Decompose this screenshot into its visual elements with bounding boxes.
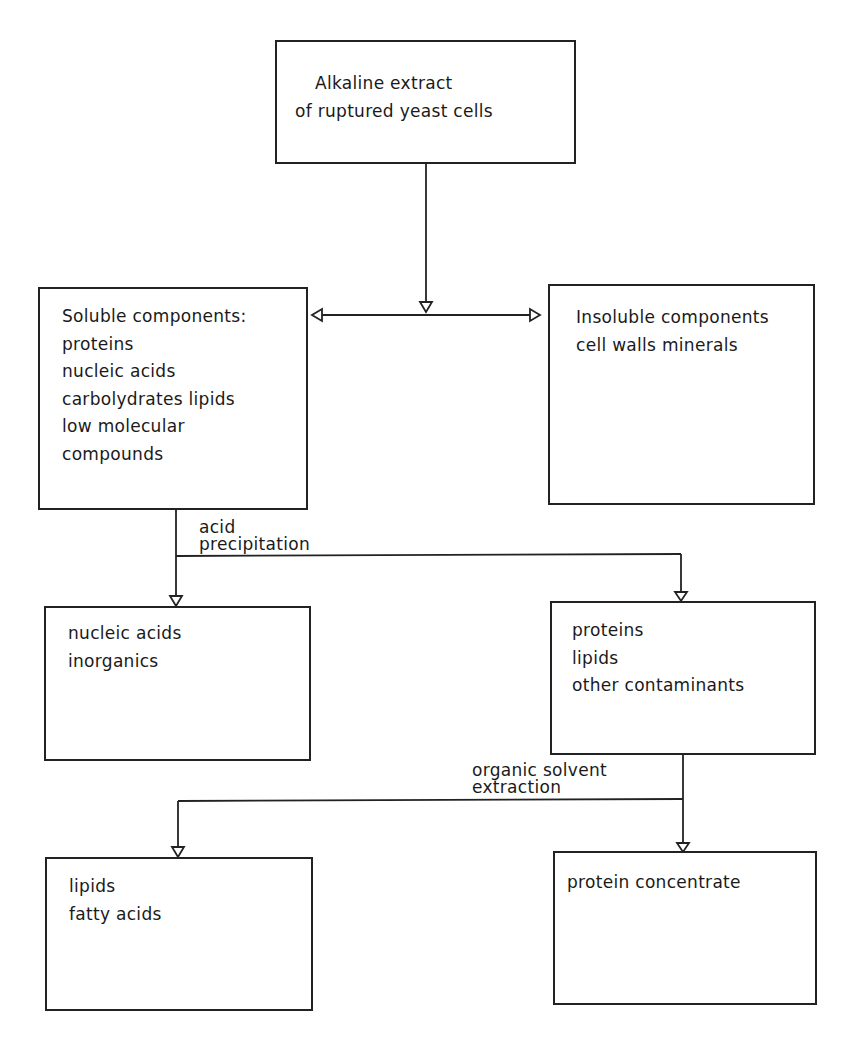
node-text: nucleic acids xyxy=(68,620,182,648)
node-soluble-components: Soluble components: proteins nucleic aci… xyxy=(38,287,308,510)
node-text: inorganics xyxy=(68,648,182,676)
node-text: lipids xyxy=(572,645,744,673)
node-text: nucleic acids xyxy=(62,358,247,386)
arrow-right-icon xyxy=(530,309,540,321)
arrow-down-icon xyxy=(420,302,432,312)
node-text: compounds xyxy=(62,441,247,469)
node-text: proteins xyxy=(572,617,744,645)
node-protein-concentrate: protein concentrate xyxy=(553,851,817,1005)
arrow-down-icon xyxy=(170,596,182,606)
node-nucleic-acids: nucleic acids inorganics xyxy=(44,606,311,761)
node-text: Soluble components: xyxy=(62,303,247,331)
edge-label-line: precipitation xyxy=(199,536,310,553)
node-text: lipids xyxy=(69,873,162,901)
node-text: protein concentrate xyxy=(567,869,741,897)
edge-label-line: extraction xyxy=(472,779,607,796)
node-text: Alkaline extract xyxy=(295,70,493,98)
node-text: cell walls minerals xyxy=(576,332,769,360)
arrow-down-icon xyxy=(675,592,687,601)
node-text: proteins xyxy=(62,331,247,359)
arrow-left-icon xyxy=(312,309,322,321)
node-text: fatty acids xyxy=(69,901,162,929)
node-proteins-lipids: proteins lipids other contaminants xyxy=(550,601,816,755)
node-text: low molecular xyxy=(62,413,247,441)
node-text: carbolydrates lipids xyxy=(62,386,247,414)
edge-label-organic-solvent-extraction: organic solvent extraction xyxy=(472,762,607,796)
edge-label-acid-precipitation: acid precipitation xyxy=(199,519,310,553)
node-alkaline-extract: Alkaline extract of ruptured yeast cells xyxy=(275,40,576,164)
node-text: other contaminants xyxy=(572,672,744,700)
node-text: Insoluble components xyxy=(576,304,769,332)
node-insoluble-components: Insoluble components cell walls minerals xyxy=(548,284,815,505)
node-text: of ruptured yeast cells xyxy=(295,98,493,126)
node-lipids-fatty-acids: lipids fatty acids xyxy=(45,857,313,1011)
arrow-down-icon xyxy=(172,847,184,857)
